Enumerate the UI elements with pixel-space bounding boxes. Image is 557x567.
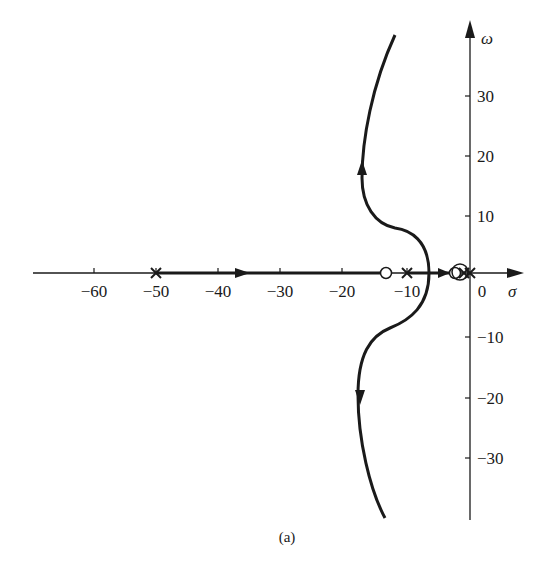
tick-label: −40 [205, 282, 232, 301]
locus-branches [156, 35, 452, 518]
tick-label: 30 [477, 87, 494, 106]
omega-tick-labels: 30 20 10 −10 −20 −30 [477, 87, 504, 468]
direction-arrow-icon [357, 160, 367, 175]
sigma-axis-arrow-icon [507, 268, 524, 278]
tick-label: 20 [477, 147, 494, 166]
tick-label: −10 [394, 282, 421, 301]
tick-label: −30 [267, 282, 294, 301]
direction-arrow-icon [235, 268, 250, 278]
direction-arrow-icon [438, 268, 450, 278]
tick-label: 0 [478, 282, 487, 301]
tick-label: 10 [477, 207, 494, 226]
direction-arrow-icon [355, 390, 365, 405]
tick-label: −20 [329, 282, 356, 301]
omega-axis-arrow-icon [465, 20, 475, 38]
tick-label: −60 [81, 282, 108, 301]
tick-label: −10 [477, 328, 504, 347]
upper-branch [362, 35, 429, 273]
tick-label: −30 [477, 449, 504, 468]
omega-axis-label: ω [481, 29, 493, 48]
sigma-axis-label: σ [508, 282, 517, 301]
root-locus-diagram: −60 −50 −40 −30 −20 −10 0 30 20 10 −10 −… [0, 0, 557, 567]
tick-label: −20 [477, 389, 504, 408]
figure-caption: (a) [279, 529, 296, 546]
zero-marker-icon [450, 268, 461, 279]
lower-branch [358, 273, 429, 518]
tick-label: −50 [143, 282, 170, 301]
zero-marker-icon [381, 268, 392, 279]
